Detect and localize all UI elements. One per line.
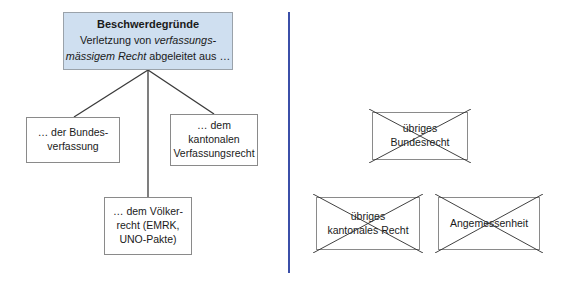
node-root-heading: Beschwerdegründe (97, 17, 199, 33)
node-root-body-line-1: Verletzung von verfassungs- (80, 33, 216, 48)
root-body-post: abgeleitet aus … (146, 50, 230, 62)
node-line: Verfassungsrecht (173, 147, 254, 161)
node-voelkerrecht: … dem Völker- recht (EMRK, UNO-Pakte) (104, 197, 192, 255)
node-uebriges-bundesrecht: übriges Bundesrecht (372, 112, 468, 160)
diagram-canvas: Beschwerdegründe Verletzung von verfassu… (0, 0, 564, 282)
node-beschwerdegruende: Beschwerdegründe Verletzung von verfassu… (63, 12, 233, 70)
node-uebriges-kantonales-recht: übriges kantonales Recht (316, 197, 420, 250)
node-root-body-line-2: mässigem Recht abgeleitet aus … (66, 49, 230, 64)
node-voelkerrecht-text: … dem Völker- recht (EMRK, UNO-Pakte) (113, 205, 183, 247)
section-divider (288, 12, 290, 273)
root-body-em-2: mässigem Recht (66, 50, 146, 62)
node-kantonales-verfassungsrecht-text: … dem kantonalen Verfassungsrecht (173, 119, 254, 161)
root-body-em-1: verfassungs- (154, 34, 216, 46)
node-line: kantonales Recht (327, 224, 408, 238)
node-line: … dem Völker- (113, 205, 183, 219)
node-line: kantonalen (173, 133, 254, 147)
node-line: UNO-Pakte) (113, 233, 183, 247)
node-line: Bundesrecht (391, 136, 450, 150)
root-body-pre: Verletzung von (80, 34, 154, 46)
node-kantonales-verfassungsrecht: … dem kantonalen Verfassungsrecht (170, 114, 258, 166)
node-line: … der Bundes- (38, 126, 109, 140)
node-angemessenheit: Angemessenheit (438, 197, 540, 250)
node-bundesverfassung: … der Bundes- verfassung (26, 117, 120, 163)
connector-to-kantonal-verfassung (148, 70, 214, 114)
node-line: … dem (173, 119, 254, 133)
node-line: recht (EMRK, (113, 219, 183, 233)
node-uebriges-bundesrecht-text: übriges Bundesrecht (391, 122, 450, 150)
node-uebriges-kantonales-recht-text: übriges kantonales Recht (327, 210, 408, 238)
node-bundesverfassung-text: … der Bundes- verfassung (38, 126, 109, 154)
node-line: Angemessenheit (450, 217, 528, 231)
connector-to-bundesverfassung (74, 70, 148, 117)
node-line: verfassung (38, 140, 109, 154)
node-angemessenheit-text: Angemessenheit (450, 217, 528, 231)
node-line: übriges (391, 122, 450, 136)
node-line: übriges (327, 210, 408, 224)
